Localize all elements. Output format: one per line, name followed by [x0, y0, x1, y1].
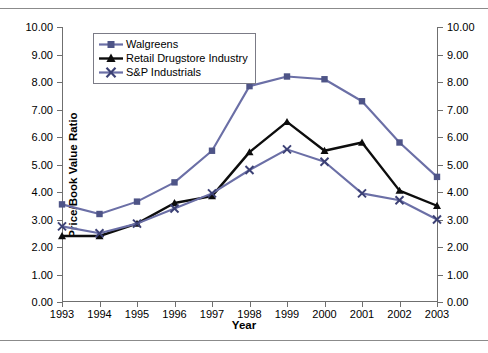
series-line	[62, 77, 437, 215]
y-tick-mark-right	[438, 55, 443, 56]
chart-legend: Walgreens Retail Drugstore Industry S&P …	[93, 33, 256, 84]
y-tick-mark-right	[438, 275, 443, 276]
x-tick-mark	[362, 302, 363, 307]
legend-item-sp: S&P Industrials	[98, 65, 248, 79]
data-point-marker	[96, 211, 102, 217]
y-tick-mark-right	[438, 247, 443, 248]
x-tick-mark	[175, 302, 176, 307]
legend-item-walgreens: Walgreens	[98, 37, 248, 51]
x-axis-title: Year	[0, 319, 488, 331]
y-tick-label-right: 7.00	[447, 104, 468, 115]
y-tick-label-right: 3.00	[447, 214, 468, 225]
y-tick-label: 6.00	[32, 132, 53, 143]
series-2	[58, 118, 441, 239]
y-tick-label-right: 10.00	[447, 22, 475, 33]
legend-item-industry: Retail Drugstore Industry	[98, 51, 248, 65]
y-tick-label: 8.00	[32, 77, 53, 88]
y-tick-mark-right	[438, 27, 443, 28]
y-tick-label: 2.00	[32, 242, 53, 253]
legend-key-x-icon	[98, 66, 124, 79]
data-point-marker	[171, 179, 177, 185]
series-3	[58, 145, 441, 237]
data-point-marker	[59, 201, 65, 207]
data-point-marker	[134, 198, 140, 204]
y-tick-mark-right	[438, 110, 443, 111]
legend-label-sp: S&P Industrials	[124, 66, 201, 79]
series-line	[62, 122, 437, 236]
y-tick-label-right: 4.00	[447, 187, 468, 198]
y-tick-label-right: 2.00	[447, 242, 468, 253]
y-tick-mark-right	[438, 165, 443, 166]
y-tick-label: 1.00	[32, 269, 53, 280]
data-point-marker	[359, 98, 365, 104]
legend-key-triangle-icon	[98, 52, 124, 65]
data-point-marker	[283, 118, 291, 125]
x-tick-mark	[137, 302, 138, 307]
y-tick-label: 9.00	[32, 49, 53, 60]
x-tick-mark	[250, 302, 251, 307]
y-tick-label-right: 6.00	[447, 132, 468, 143]
y-tick-label: 4.00	[32, 187, 53, 198]
series-line	[62, 149, 437, 233]
legend-label-industry: Retail Drugstore Industry	[124, 52, 248, 65]
legend-key-square-icon	[98, 38, 124, 51]
x-tick-mark	[62, 302, 63, 307]
y-tick-mark-right	[438, 192, 443, 193]
y-tick-label: 10.00	[25, 22, 53, 33]
y-tick-label: 7.00	[32, 104, 53, 115]
legend-label-walgreens: Walgreens	[124, 38, 178, 51]
price-book-value-ratio-chart: Price/Book Value Ratio 0.001.002.003.004…	[0, 9, 488, 340]
x-tick-mark	[212, 302, 213, 307]
data-point-marker	[434, 174, 440, 180]
plot-area: 0.001.002.003.004.005.006.007.008.009.00…	[62, 27, 438, 302]
y-tick-label: 3.00	[32, 214, 53, 225]
y-tick-label: 0.00	[32, 297, 53, 308]
series-1	[59, 73, 440, 217]
x-tick-mark	[437, 302, 438, 307]
y-tick-label-right: 1.00	[447, 269, 468, 280]
y-tick-mark-right	[438, 302, 443, 303]
y-tick-label-right: 0.00	[447, 297, 468, 308]
x-tick-mark	[400, 302, 401, 307]
x-tick-mark	[100, 302, 101, 307]
y-tick-label-right: 9.00	[447, 49, 468, 60]
y-tick-label-right: 5.00	[447, 159, 468, 170]
y-tick-mark-right	[438, 82, 443, 83]
y-tick-label-right: 8.00	[447, 77, 468, 88]
data-point-marker	[284, 73, 290, 79]
y-tick-label: 5.00	[32, 159, 53, 170]
bottom-divider-rule	[0, 340, 488, 341]
data-point-marker	[209, 148, 215, 154]
x-tick-mark	[287, 302, 288, 307]
data-point-marker	[396, 139, 402, 145]
data-point-marker	[321, 76, 327, 82]
y-tick-mark-right	[438, 137, 443, 138]
x-tick-mark	[325, 302, 326, 307]
